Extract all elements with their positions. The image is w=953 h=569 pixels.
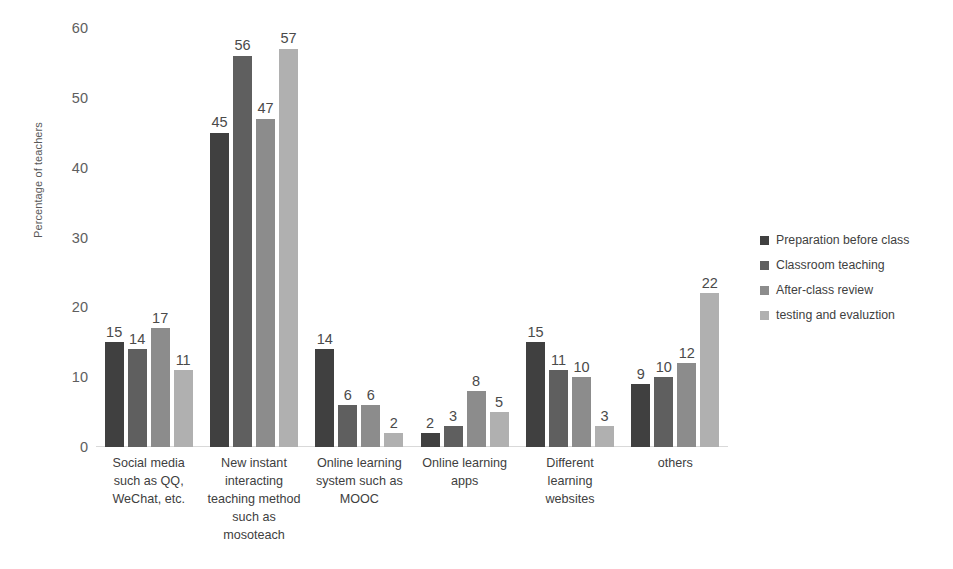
bar-column[interactable]: 10 [654, 28, 673, 447]
bar-group-bars: 1511103 [517, 28, 622, 447]
bar-column[interactable]: 14 [315, 28, 334, 447]
bar-column[interactable]: 12 [677, 28, 696, 447]
bar-value-label: 14 [317, 332, 333, 347]
bar-chart: Percentage of teachers 0102030405060 151… [0, 0, 953, 569]
legend-label: Preparation before class [776, 234, 909, 246]
bar-value-label: 15 [106, 325, 122, 340]
bar[interactable] [444, 426, 463, 447]
bar[interactable] [105, 342, 124, 447]
bar[interactable] [151, 328, 170, 447]
y-tick-20: 20 [54, 300, 88, 315]
legend-label: testing and evaluztion [776, 309, 895, 321]
bar[interactable] [700, 293, 719, 447]
legend-item[interactable]: testing and evaluztion [760, 303, 950, 328]
y-tick-0: 0 [54, 440, 88, 455]
x-category-label-line: MOOC [297, 491, 422, 509]
bar-value-label: 2 [390, 416, 398, 431]
legend-item[interactable]: Preparation before class [760, 228, 950, 253]
bar[interactable] [595, 426, 614, 447]
bar[interactable] [572, 377, 591, 447]
bar-group-bars: 15141711 [96, 28, 201, 447]
bar-group: 14662 [307, 28, 412, 447]
bar[interactable] [421, 433, 440, 447]
x-axis-category-labels: Social mediasuch as QQ,WeChat, etc.New i… [96, 455, 728, 565]
legend-label: Classroom teaching [776, 259, 885, 271]
bar-group-bars: 14662 [307, 28, 412, 447]
bar-column[interactable]: 57 [279, 28, 298, 447]
bar-value-label: 22 [702, 276, 718, 291]
bar-column[interactable]: 14 [128, 28, 147, 447]
bar[interactable] [490, 412, 509, 447]
bar-column[interactable]: 22 [700, 28, 719, 447]
bar-group-bars: 45564757 [201, 28, 306, 447]
bar[interactable] [526, 342, 545, 447]
bar-column[interactable]: 5 [490, 28, 509, 447]
bar[interactable] [279, 49, 298, 447]
legend-swatch-icon [760, 311, 769, 320]
bar-column[interactable]: 3 [595, 28, 614, 447]
bar-column[interactable]: 56 [233, 28, 252, 447]
bar-value-label: 56 [234, 38, 250, 53]
legend-swatch-icon [760, 286, 769, 295]
legend-item[interactable]: Classroom teaching [760, 253, 950, 278]
plot-area: 151417114556475714662238515111039101222 [96, 28, 728, 447]
bar-value-label: 11 [551, 353, 566, 368]
bar-group-bars: 9101222 [623, 28, 728, 447]
bar[interactable] [174, 370, 193, 447]
bar-column[interactable]: 2 [421, 28, 440, 447]
bar-value-label: 10 [573, 360, 589, 375]
bar-group-bars: 2385 [412, 28, 517, 447]
x-category-label: others [613, 455, 738, 473]
bar[interactable] [233, 56, 252, 447]
bar-value-label: 5 [495, 395, 503, 410]
y-tick-10: 10 [54, 370, 88, 385]
bar-column[interactable]: 15 [526, 28, 545, 447]
bar-value-label: 17 [152, 311, 168, 326]
bar-group: 2385 [412, 28, 517, 447]
bar-column[interactable]: 45 [210, 28, 229, 447]
bar-column[interactable]: 11 [549, 28, 568, 447]
x-category-label-line: learning [507, 473, 632, 491]
bar[interactable] [654, 377, 673, 447]
bar-column[interactable]: 8 [467, 28, 486, 447]
bar-value-label: 11 [176, 353, 191, 368]
bar-column[interactable]: 11 [174, 28, 193, 447]
y-tick-60: 60 [54, 21, 88, 36]
bar[interactable] [631, 384, 650, 447]
bar[interactable] [256, 119, 275, 447]
bar-group: 15141711 [96, 28, 201, 447]
bar-column[interactable]: 47 [256, 28, 275, 447]
bar[interactable] [338, 405, 357, 447]
bar-column[interactable]: 15 [105, 28, 124, 447]
legend-swatch-icon [760, 261, 769, 270]
x-category-label-line: mosoteach [191, 527, 316, 545]
y-axis-tick-labels: 0102030405060 [52, 28, 88, 447]
bar-value-label: 8 [472, 374, 480, 389]
bar-value-label: 47 [257, 101, 273, 116]
bar-value-label: 6 [367, 388, 375, 403]
bar-column[interactable]: 6 [361, 28, 380, 447]
legend-item[interactable]: After-class review [760, 278, 950, 303]
bar-column[interactable]: 10 [572, 28, 591, 447]
bar-group: 1511103 [517, 28, 622, 447]
legend-label: After-class review [776, 284, 873, 296]
bar[interactable] [210, 133, 229, 447]
bar[interactable] [361, 405, 380, 447]
bar-column[interactable]: 2 [384, 28, 403, 447]
bar[interactable] [315, 349, 334, 447]
bar[interactable] [467, 391, 486, 447]
bar[interactable] [384, 433, 403, 447]
bar-column[interactable]: 3 [444, 28, 463, 447]
bar-column[interactable]: 6 [338, 28, 357, 447]
bar-column[interactable]: 17 [151, 28, 170, 447]
bar[interactable] [549, 370, 568, 447]
bar-value-label: 9 [637, 367, 645, 382]
legend-swatch-icon [760, 236, 769, 245]
x-category-label-line: such as [191, 509, 316, 527]
bar-column[interactable]: 9 [631, 28, 650, 447]
bar-value-label: 57 [280, 31, 296, 46]
y-axis-title: Percentage of teachers [32, 80, 44, 280]
bar-value-label: 10 [656, 360, 672, 375]
bar[interactable] [128, 349, 147, 447]
bar[interactable] [677, 363, 696, 447]
